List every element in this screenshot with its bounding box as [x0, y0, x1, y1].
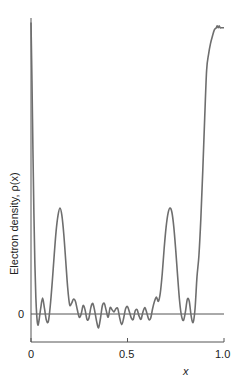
electron-density-chart: 0 0 0.5 1.0 x Electron density, ρ(x)	[0, 0, 240, 377]
x-axis-label: x	[182, 365, 189, 377]
y-tick-label-0: 0	[18, 308, 24, 320]
density-curve	[31, 23, 224, 328]
x-tick-label-0: 0	[28, 348, 34, 360]
y-axis-label: Electron density, ρ(x)	[8, 172, 20, 275]
x-ticks	[31, 338, 224, 342]
x-tick-label-0.5: 0.5	[119, 348, 134, 360]
x-tick-label-1.0: 1.0	[215, 348, 230, 360]
